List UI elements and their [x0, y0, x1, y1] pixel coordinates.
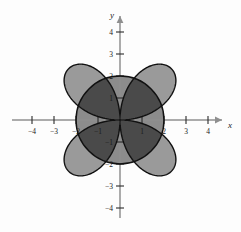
- polar-plot-figure: −4−3−2−112344321−1−2−3−4 x y: [0, 0, 241, 232]
- y-tick-label: 4: [109, 28, 113, 37]
- x-axis-arrow: [215, 117, 222, 124]
- y-axis-arrow: [117, 16, 124, 23]
- x-tick-label: −1: [94, 127, 102, 136]
- y-tick-label: 1: [109, 94, 113, 103]
- x-tick-label: 3: [184, 127, 188, 136]
- y-tick-label: −3: [105, 182, 113, 191]
- x-tick-label: −4: [28, 127, 36, 136]
- y-tick-label: 3: [109, 50, 113, 59]
- plot-canvas: −4−3−2−112344321−1−2−3−4 x y: [0, 0, 241, 232]
- x-tick-label: 1: [140, 127, 144, 136]
- y-axis-label: y: [109, 10, 114, 20]
- x-axis-label: x: [227, 120, 232, 130]
- y-tick-label: −1: [105, 138, 113, 147]
- y-tick-label: −4: [105, 204, 113, 213]
- x-tick-label: 4: [206, 127, 210, 136]
- x-tick-label: −3: [50, 127, 58, 136]
